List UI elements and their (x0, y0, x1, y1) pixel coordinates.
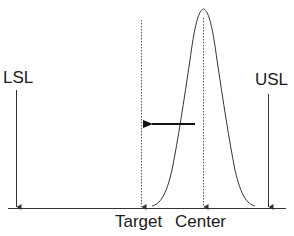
target-label: Target (115, 213, 162, 230)
diagram-canvas (0, 0, 294, 236)
lsl-label: LSL (3, 69, 33, 86)
process-capability-diagram: LSL USL Target Center (0, 0, 294, 236)
usl-label: USL (255, 71, 288, 88)
distribution-bell-curve (152, 9, 255, 206)
center-label: Center (175, 213, 226, 230)
